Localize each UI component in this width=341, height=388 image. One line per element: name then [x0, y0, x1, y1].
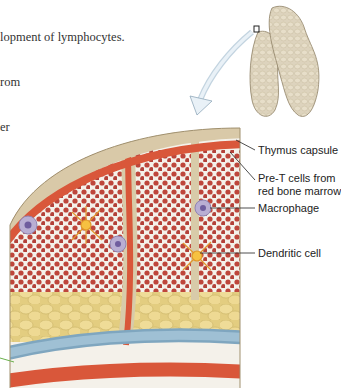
thymus-organ [250, 6, 319, 116]
label-pre-t-cells-line2: red bone marrow [258, 185, 341, 198]
label-pre-t-cells-line1: Pre-T cells from [258, 172, 335, 185]
label-macrophage: Macrophage [258, 202, 319, 215]
label-dendritic-cell: Dendritic cell [258, 247, 321, 260]
zoom-arrow [190, 32, 252, 115]
zoom-box-marker [254, 26, 259, 32]
label-thymus-capsule: Thymus capsule [258, 144, 338, 157]
thymus-tissue-section [0, 120, 250, 388]
